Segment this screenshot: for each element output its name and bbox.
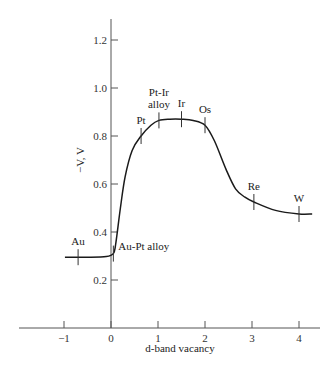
y-tick-label: 0.2 — [93, 274, 107, 286]
annotation-label: Re — [248, 180, 260, 192]
y-tick-label: 1.0 — [93, 82, 107, 94]
annotation-label-line2: alloy — [148, 98, 170, 110]
annotation-os: Os — [199, 103, 211, 133]
y-axis-label: −V, V — [74, 147, 86, 173]
x-tick-label: 4 — [296, 332, 302, 344]
annotation-pt-ir: Pt-Iralloy — [148, 86, 170, 128]
annotation-ir: Ir — [178, 97, 186, 127]
x-tick-label: 0 — [108, 332, 114, 344]
y-tick-label: 0.4 — [93, 226, 107, 238]
y-tick-label: 0.8 — [93, 130, 107, 142]
annotation-au-pt-alloy: Au-Pt alloy — [113, 240, 170, 262]
y-ticks: 0.20.40.60.81.01.2 — [93, 34, 118, 286]
x-ticks: −101234 — [58, 321, 302, 344]
annotation-label: Pt-Ir — [149, 86, 170, 98]
annotation-label: Au — [71, 235, 85, 247]
annotation-au: Au — [71, 235, 85, 265]
y-tick-label: 0.6 — [93, 178, 107, 190]
annotation-label: Os — [199, 103, 211, 115]
annotation-label: Au-Pt alloy — [118, 240, 170, 252]
x-tick-label: 3 — [249, 332, 255, 344]
annotation-w: W — [294, 192, 305, 222]
x-axis-label: d-band vacancy — [145, 342, 215, 354]
annotations: AuAu-Pt alloyPtPt-IralloyIrOsReW — [71, 86, 304, 265]
y-tick-label: 1.2 — [93, 34, 107, 46]
axes — [19, 19, 320, 328]
x-tick-label: −1 — [58, 332, 70, 344]
annotation-label: Pt — [136, 114, 145, 126]
annotation-re: Re — [248, 180, 260, 210]
chart: −101234 0.20.40.60.81.01.2 d-band vacanc… — [0, 0, 335, 369]
annotation-label: W — [294, 192, 305, 204]
annotation-label: Ir — [178, 97, 186, 109]
